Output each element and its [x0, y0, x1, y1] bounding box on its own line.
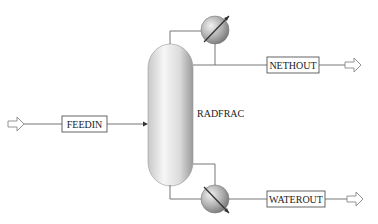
flowsheet-canvas: FEEDIN RADFRAC NETHOUT WATEROUT [0, 0, 378, 224]
feed-source-arrow-icon [8, 117, 24, 131]
block-label: RADFRAC [197, 108, 245, 119]
reflux-line [193, 44, 215, 65]
svg-text:FEEDIN: FEEDIN [67, 119, 103, 130]
condenser[interactable] [201, 16, 229, 44]
stream-feedin[interactable]: FEEDIN [62, 116, 107, 132]
radfrac-column[interactable] [148, 44, 193, 186]
boilup-line [193, 164, 215, 185]
reboiler[interactable] [201, 185, 229, 213]
stream-waterout[interactable]: WATEROUT [267, 191, 325, 207]
overhead-vapor-line [170, 31, 201, 44]
feed-arrowhead-icon [143, 122, 148, 127]
waterout-product-arrow-icon [347, 192, 363, 206]
bottoms-liquid-line [170, 185, 201, 199]
stream-nethout[interactable]: NETHOUT [267, 57, 319, 73]
nethout-product-arrow-icon [345, 58, 361, 72]
svg-text:NETHOUT: NETHOUT [269, 60, 316, 71]
svg-text:WATEROUT: WATEROUT [269, 194, 323, 205]
